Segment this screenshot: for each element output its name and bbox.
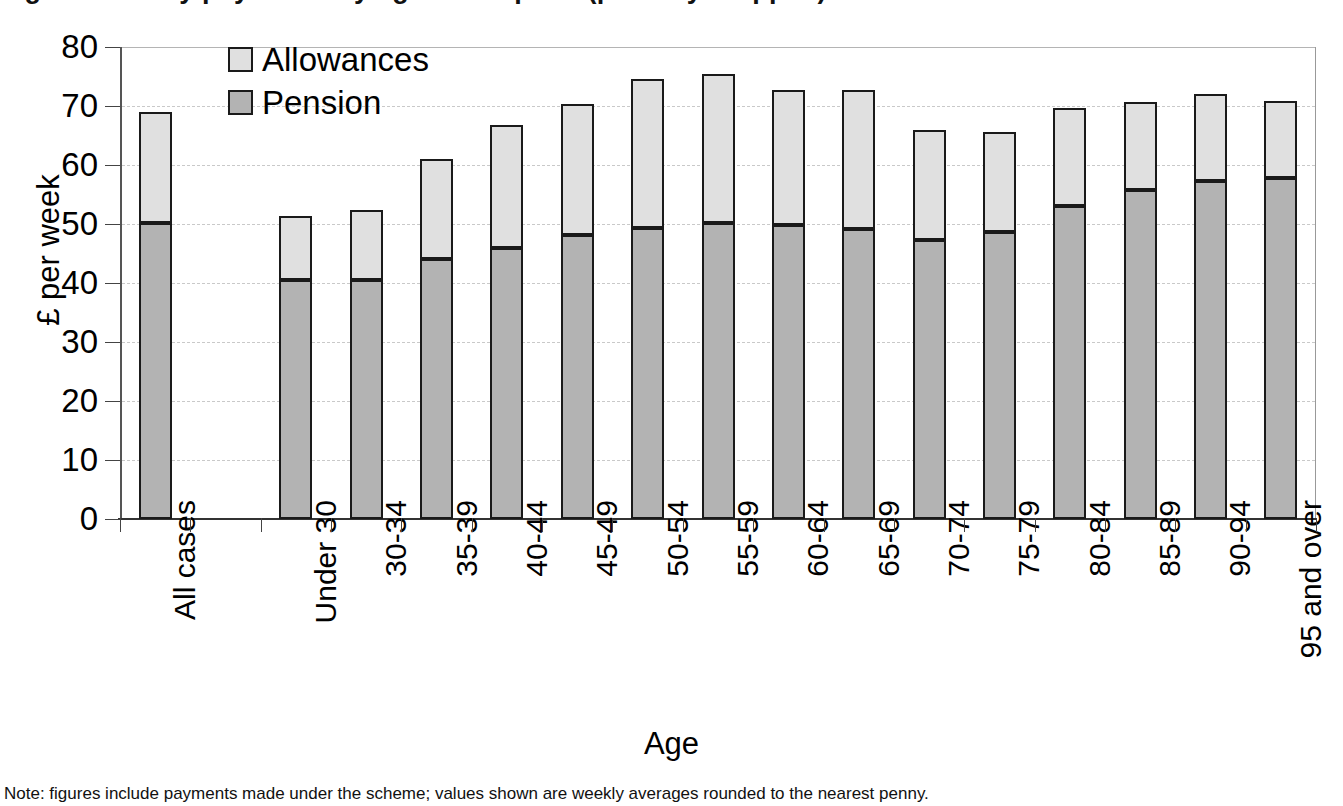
bar-segment-allowances[interactable]	[139, 112, 172, 223]
bar-segment-allowances[interactable]	[631, 79, 664, 228]
bar-stack[interactable]	[1124, 102, 1157, 519]
x-axis-tick	[964, 518, 965, 532]
bar-segment-allowances[interactable]	[561, 104, 594, 235]
bar-segment-pension[interactable]	[139, 223, 172, 519]
x-axis-tick	[261, 518, 262, 532]
x-axis-category-label: 60-64	[801, 500, 835, 700]
bar-stack[interactable]	[561, 104, 594, 519]
x-axis-category-label: 70-74	[942, 500, 976, 700]
x-axis-category-label: 50-54	[661, 500, 695, 700]
bar-stack[interactable]	[702, 74, 735, 519]
bar-segment-pension[interactable]	[1124, 190, 1157, 519]
y-axis-tick	[105, 224, 120, 225]
bar-segment-pension[interactable]	[1264, 178, 1297, 519]
bar-stack[interactable]	[772, 90, 805, 519]
y-axis-tick	[105, 342, 120, 343]
y-axis-tick-label: 10	[36, 443, 98, 476]
bar-stack[interactable]	[1194, 94, 1227, 519]
legend-item-pension[interactable]: Pension	[228, 81, 558, 124]
bar-stack[interactable]	[139, 112, 172, 519]
x-axis-tick	[1105, 518, 1106, 532]
bar-segment-pension[interactable]	[702, 223, 735, 519]
x-axis-category-label: 55-59	[731, 500, 765, 700]
x-axis-tick	[683, 518, 684, 532]
x-axis-category-label: Under 30	[309, 500, 343, 700]
y-axis-tick-label: 20	[36, 384, 98, 417]
legend-swatch-pension-icon	[228, 90, 253, 115]
bar-segment-allowances[interactable]	[1194, 94, 1227, 181]
x-axis-category-label: 35-39	[450, 500, 484, 700]
bar-segment-pension[interactable]	[420, 259, 453, 519]
x-axis-category-label: All cases	[168, 500, 202, 700]
x-axis-tick	[1246, 518, 1247, 532]
bar-segment-pension[interactable]	[1194, 181, 1227, 519]
x-axis-tick	[612, 518, 613, 532]
legend-item-allowances[interactable]: Allowances	[228, 38, 558, 81]
y-axis-tick-label: 0	[36, 502, 98, 535]
x-axis-category-label: 65-69	[872, 500, 906, 700]
bar-segment-allowances[interactable]	[279, 216, 312, 280]
bar-stack[interactable]	[913, 130, 946, 519]
legend-label-pension: Pension	[262, 86, 381, 119]
y-axis-tick	[105, 401, 120, 402]
bar-stack[interactable]	[490, 125, 523, 519]
x-axis-tick	[542, 518, 543, 532]
bar-segment-pension[interactable]	[772, 225, 805, 519]
y-axis-tick	[105, 283, 120, 284]
bar-stack[interactable]	[842, 90, 875, 519]
x-axis-tick	[472, 518, 473, 532]
legend-swatch-allowances-icon	[228, 47, 253, 72]
bar-segment-pension[interactable]	[631, 228, 664, 519]
legend: Allowances Pension	[228, 38, 558, 124]
bar-segment-allowances[interactable]	[702, 74, 735, 224]
figure-caption: Note: figures include payments made unde…	[4, 784, 1343, 806]
x-axis-category-label: 30-34	[379, 500, 413, 700]
x-axis-tick	[753, 518, 754, 532]
bar-stack[interactable]	[1264, 101, 1297, 519]
bar-segment-pension[interactable]	[279, 280, 312, 519]
bar-segment-pension[interactable]	[490, 248, 523, 519]
x-axis-category-label: 80-84	[1083, 500, 1117, 700]
bar-segment-allowances[interactable]	[1264, 101, 1297, 178]
bar-segment-pension[interactable]	[561, 235, 594, 519]
bar-segment-pension[interactable]	[1053, 206, 1086, 519]
x-axis-category-label: 85-89	[1153, 500, 1187, 700]
y-axis-tick-label: 80	[36, 30, 98, 63]
bar-stack[interactable]	[1053, 108, 1086, 519]
bar-stack[interactable]	[279, 216, 312, 519]
bar-segment-allowances[interactable]	[772, 90, 805, 225]
bar-segment-pension[interactable]	[983, 232, 1016, 519]
x-axis-title: Age	[0, 726, 1343, 762]
bar-segment-pension[interactable]	[350, 280, 383, 519]
bar-stack[interactable]	[631, 79, 664, 519]
bar-stack[interactable]	[350, 210, 383, 519]
x-axis-category-label: 95 and over	[1294, 500, 1328, 700]
bar-segment-allowances[interactable]	[490, 125, 523, 247]
legend-label-allowances: Allowances	[262, 43, 429, 76]
bar-segment-allowances[interactable]	[842, 90, 875, 229]
y-axis-title: £ per week	[31, 135, 67, 365]
bar-segment-allowances[interactable]	[913, 130, 946, 240]
y-axis-tick	[105, 519, 120, 520]
y-axis-tick	[105, 165, 120, 166]
bar-segment-allowances[interactable]	[350, 210, 383, 280]
bar-segment-pension[interactable]	[842, 229, 875, 519]
bar-segment-allowances[interactable]	[1053, 108, 1086, 206]
bar-stack[interactable]	[983, 132, 1016, 519]
x-axis-tick	[824, 518, 825, 532]
y-axis-tick-label: 70	[36, 89, 98, 122]
bar-segment-allowances[interactable]	[420, 159, 453, 259]
bar-stack[interactable]	[420, 159, 453, 519]
bar-segment-allowances[interactable]	[983, 132, 1016, 232]
x-axis-tick	[1035, 518, 1036, 532]
x-axis-category-label: 90-94	[1223, 500, 1257, 700]
y-axis-tick	[105, 460, 120, 461]
figure-title: Figure: Weekly payments by age of recipi…	[0, 0, 1343, 8]
x-axis-tick	[894, 518, 895, 532]
x-axis-tick	[331, 518, 332, 532]
x-axis-category-label: 45-49	[590, 500, 624, 700]
x-axis-tick	[190, 518, 191, 532]
bar-segment-pension[interactable]	[913, 240, 946, 519]
x-axis-category-label: 40-44	[520, 500, 554, 700]
bar-segment-allowances[interactable]	[1124, 102, 1157, 191]
